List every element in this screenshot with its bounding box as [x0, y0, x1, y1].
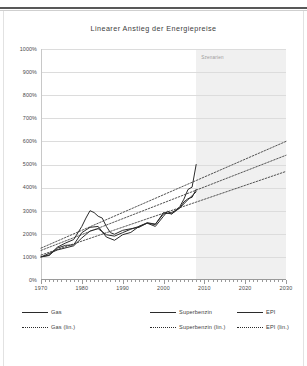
x-axis-tick	[139, 280, 140, 282]
legend-swatch-solid-icon	[22, 309, 48, 316]
legend-item[interactable]: Gas (lin.)	[22, 320, 75, 334]
x-axis-tick	[229, 280, 230, 282]
y-tick-label: 400%	[23, 184, 37, 190]
x-axis-tick	[176, 280, 177, 282]
legend-swatch-dotted-icon	[237, 324, 263, 331]
x-axis-tick	[147, 280, 148, 282]
y-axis-labels: 0%100%200%300%400%500%600%700%800%900%10…	[0, 49, 37, 280]
x-axis-tick	[82, 280, 83, 284]
x-axis-tick	[233, 280, 234, 282]
y-tick-label: 100%	[23, 254, 37, 260]
x-axis-tick	[217, 280, 218, 282]
x-tick-label: 2000	[157, 285, 170, 291]
x-axis-tick	[70, 280, 71, 282]
x-axis-tick	[74, 280, 75, 282]
x-tick-label: 2010	[198, 285, 211, 291]
x-axis-tick	[286, 280, 287, 284]
x-tick-label: 2030	[280, 285, 293, 291]
legend-item[interactable]: EPI	[237, 305, 275, 319]
x-axis-tick	[266, 280, 267, 282]
legend-row: Gas (lin.)Superbenzin (lin.)EPI (lin.)	[10, 320, 297, 334]
x-axis-tick	[270, 280, 271, 282]
x-axis-tick	[249, 280, 250, 282]
y-tick-label: 700%	[23, 115, 37, 121]
y-tick-label: 1000%	[20, 46, 37, 52]
legend-swatch-solid-icon	[150, 309, 176, 316]
legend-item[interactable]: Superbenzin	[150, 305, 212, 319]
x-axis-tick	[200, 280, 201, 282]
x-axis-tick	[225, 280, 226, 282]
x-axis-tick	[257, 280, 258, 282]
x-axis-tick	[86, 280, 87, 282]
y-tick-label: 0%	[29, 277, 37, 283]
x-axis-tick	[168, 280, 169, 282]
x-tick-label: 1990	[116, 285, 129, 291]
x-axis-tick	[221, 280, 222, 282]
x-axis-tick	[102, 280, 103, 282]
legend-row: GasSuperbenzinEPI	[10, 305, 297, 319]
x-axis-tick	[135, 280, 136, 282]
x-axis-tick	[192, 280, 193, 282]
x-axis-tick	[41, 280, 42, 284]
x-tick-label: 2020	[239, 285, 252, 291]
page-top-rule-thin	[0, 10, 307, 11]
x-axis-tick	[155, 280, 156, 282]
x-axis-tick	[45, 280, 46, 282]
x-axis-tick	[61, 280, 62, 282]
x-tick-label: 1970	[35, 285, 48, 291]
y-tick-label: 900%	[23, 69, 37, 75]
y-tick-label: 500%	[23, 161, 37, 167]
x-axis-tick	[172, 280, 173, 282]
x-tick-label: 1980	[75, 285, 88, 291]
x-axis-tick	[143, 280, 144, 282]
x-axis-tick	[106, 280, 107, 282]
x-axis-tick	[262, 280, 263, 282]
x-axis-tick	[159, 280, 160, 282]
x-axis-tick	[208, 280, 209, 282]
x-axis-tick	[66, 280, 67, 282]
x-axis-tick	[53, 280, 54, 282]
x-axis-tick	[278, 280, 279, 282]
x-axis-tick	[253, 280, 254, 282]
x-axis-tick	[90, 280, 91, 282]
x-axis-labels: 1970198019902000201020202030	[41, 285, 286, 297]
x-axis-tick	[245, 280, 246, 284]
series-line	[41, 165, 196, 257]
legend-swatch-solid-icon	[237, 309, 263, 316]
legend-item[interactable]: Gas	[22, 305, 62, 319]
x-axis-tick	[119, 280, 120, 282]
x-axis-tick	[164, 280, 165, 284]
legend-swatch-dotted-icon	[150, 324, 176, 331]
series-line	[41, 141, 286, 248]
y-tick-label: 600%	[23, 138, 37, 144]
x-axis-tick	[49, 280, 50, 282]
x-axis-tick	[184, 280, 185, 282]
x-axis-tick	[237, 280, 238, 282]
x-axis-tick	[282, 280, 283, 282]
x-axis-tick	[151, 280, 152, 282]
legend-label: EPI	[266, 309, 275, 315]
x-axis-tick	[131, 280, 132, 282]
legend-label: Gas (lin.)	[51, 324, 75, 330]
legend-label: EPI (lin.)	[266, 324, 289, 330]
page-top-rule	[0, 7, 307, 9]
series-line	[41, 171, 286, 255]
x-axis-tick	[127, 280, 128, 282]
chart-title: Linearer Anstieg der Energiepreise	[0, 24, 307, 33]
legend-item[interactable]: Superbenzin (lin.)	[150, 320, 226, 334]
legend-label: Superbenzin	[179, 309, 212, 315]
x-axis-tick	[94, 280, 95, 282]
page-right-edge	[303, 11, 304, 366]
legend-item[interactable]: EPI (lin.)	[237, 320, 289, 334]
series-lines	[41, 49, 286, 280]
x-axis-minor-ticks	[41, 280, 286, 284]
x-axis-tick	[123, 280, 124, 284]
y-tick-label: 200%	[23, 231, 37, 237]
x-axis-tick	[188, 280, 189, 282]
x-axis-tick	[57, 280, 58, 282]
legend-swatch-dotted-icon	[22, 324, 48, 331]
series-line	[41, 155, 286, 250]
legend-label: Gas	[51, 309, 62, 315]
y-tick-label: 300%	[23, 208, 37, 214]
x-axis-tick	[110, 280, 111, 282]
